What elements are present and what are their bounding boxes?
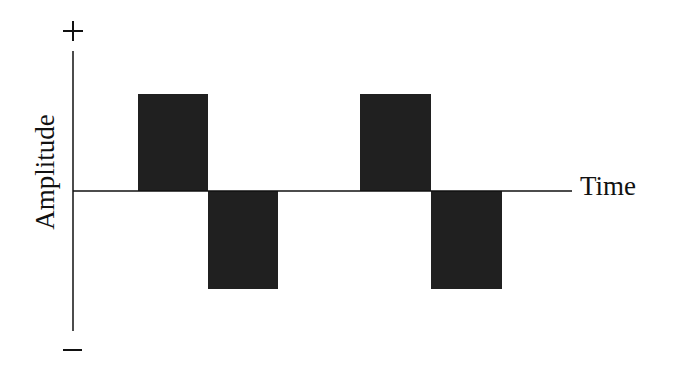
- x-axis-label: Time: [580, 173, 636, 200]
- y-axis-label: Amplitude: [32, 114, 59, 230]
- square-wave-diagram: Amplitude Time: [0, 0, 682, 366]
